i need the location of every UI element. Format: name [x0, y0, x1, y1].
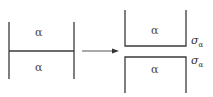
sigma-subscript: α [199, 61, 204, 69]
bottom-surface-energy-label: σα [191, 55, 203, 69]
sigma-symbol: σ [191, 54, 199, 67]
top-surface-energy-label: σα [191, 35, 203, 49]
sigma-symbol: σ [191, 34, 199, 47]
left-top-phase-label: α [35, 27, 42, 38]
transition-arrow [82, 49, 119, 54]
left-bottom-phase-label: α [35, 62, 42, 73]
sigma-subscript: α [199, 41, 204, 49]
diagram-canvas [0, 0, 213, 97]
right-bottom-phase-label: α [151, 64, 158, 75]
right-top-phase-label: α [151, 25, 158, 36]
arrow-head-icon [112, 49, 119, 54]
